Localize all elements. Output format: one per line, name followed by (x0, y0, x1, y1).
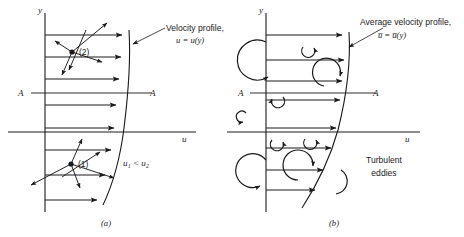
panel-a-velocity-profile-curve (103, 30, 130, 205)
panel-a-molecular-arrow (55, 41, 72, 52)
panel-b-eddies-label-line2: eddies (371, 168, 396, 178)
panel-a-y-axis-label: y (37, 5, 42, 15)
panel-b-eddy-medium (313, 58, 341, 86)
panel-b-eddy-small (272, 97, 285, 108)
panel-b: y u A A (227, 5, 451, 228)
panel-b-eddy-tiny (236, 111, 246, 122)
panel-a-section-label-left: A (17, 88, 24, 98)
panel-a-section-label-right: A (149, 88, 156, 98)
panel-a-molecular-arrow (62, 52, 72, 75)
panel-a-molecular-arrow (72, 23, 107, 52)
panel-b-section-label-right: A (372, 88, 379, 98)
panel-b-profile-annotation-line2: u̅ = u̅(y) (378, 30, 406, 40)
panel-b-eddy-large (237, 40, 268, 80)
panel-b-eddy-large (236, 154, 266, 188)
panel-b-eddy-small (270, 140, 283, 151)
panel-a-profile-leader-line (133, 28, 165, 44)
panel-a-point-2-label: (2) (79, 47, 90, 57)
panel-a-profile-annotation-line1: Velocity profile, (166, 23, 224, 33)
panel-b-eddy-arc (336, 170, 347, 194)
panel-a-u-axis-label: u (182, 134, 187, 144)
panel-a-inequality-label: u₁ < u₂ (123, 158, 149, 168)
figure-container: y u A A (2) (1) u₁ (0, 0, 464, 237)
panel-b-caption: (b) (329, 218, 339, 228)
panel-b-profile-annotation-line1: Average velocity profile, (360, 17, 451, 27)
laminar-turbulent-figure: y u A A (2) (1) u₁ (0, 0, 464, 237)
panel-b-y-axis-label: y (258, 5, 263, 15)
panel-b-section-label-left: A (237, 88, 244, 98)
panel-b-eddy-medium (283, 150, 313, 180)
panel-a-molecular-arrow (71, 164, 114, 178)
panel-a-caption: (a) (101, 218, 111, 228)
panel-a-molecular-arrow (62, 152, 100, 177)
panel-b-eddy-small (302, 47, 315, 57)
panel-a: y u A A (2) (1) u₁ (8, 5, 224, 228)
panel-b-u-axis-label: u (405, 134, 410, 144)
panel-b-eddies-label-line1: Turbulent (366, 155, 403, 165)
panel-a-profile-annotation-line2: u = u(y) (176, 35, 204, 45)
